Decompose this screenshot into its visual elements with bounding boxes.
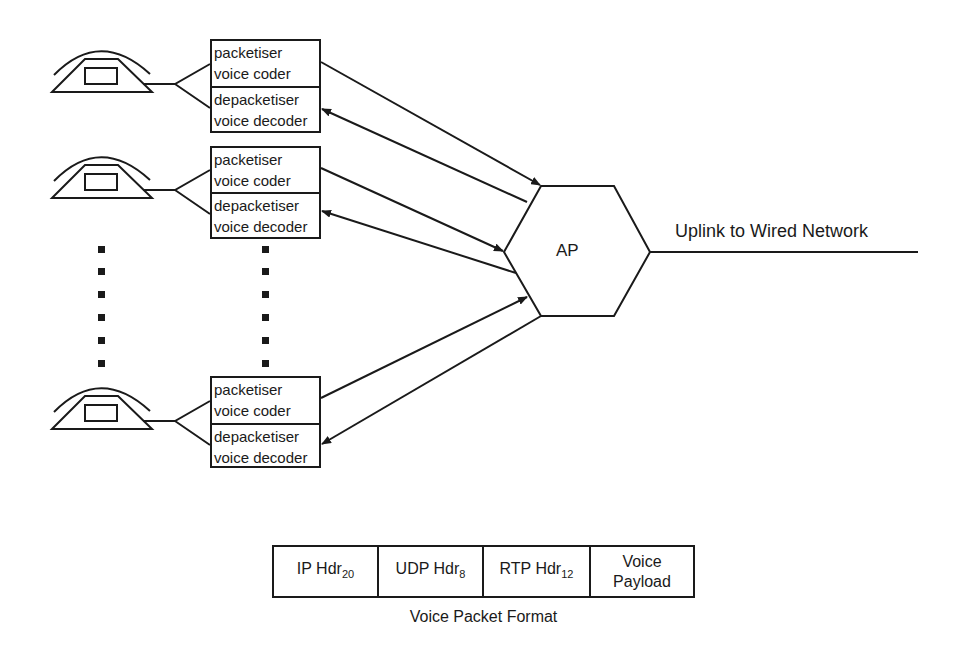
field-size: 8 [459,568,465,580]
phone-icon [52,157,210,214]
coder-line-1: packetiser [214,379,319,400]
field-name: UDP Hdr [396,560,460,577]
codec-box-2: packetiser voice coder depacketiser voic… [210,146,321,239]
field-line-1: Voice [622,553,661,570]
ip-header-field: IP Hdr20 [274,547,379,596]
decoder-section: depacketiser voice decoder [212,86,319,131]
ellipsis-dots [98,246,269,367]
codec-box-n: packetiser voice coder depacketiser voic… [210,376,321,468]
coder-line-1: packetiser [214,42,319,63]
decoder-line-2: voice decoder [214,216,319,237]
decoder-line-2: voice decoder [214,447,319,468]
phone-icon [52,388,210,445]
codec-box-1: packetiser voice coder depacketiser voic… [210,39,321,133]
udp-header-field: UDP Hdr8 [379,547,484,596]
field-name: RTP Hdr [500,560,562,577]
decoder-line-1: depacketiser [214,89,319,110]
coder-section: packetiser voice coder [212,41,319,87]
field-name: IP Hdr [297,560,342,577]
rtp-header-field: RTP Hdr12 [484,547,591,596]
voice-payload-field: VoicePayload [591,547,693,596]
field-size: 20 [342,568,354,580]
decoder-section: depacketiser voice decoder [212,423,319,467]
coder-line-2: voice coder [214,63,319,84]
decoder-line-1: depacketiser [214,426,319,447]
uplink-label: Uplink to Wired Network [675,220,868,242]
decoder-section: depacketiser voice decoder [212,192,319,237]
coder-line-1: packetiser [214,149,319,170]
packet-format-caption: Voice Packet Format [272,606,695,628]
coder-section: packetiser voice coder [212,378,319,424]
coder-section: packetiser voice coder [212,148,319,193]
phone-icon [52,51,210,108]
coder-line-2: voice coder [214,400,319,421]
field-line-2: Payload [613,573,671,590]
link-arrows [321,62,541,444]
decoder-line-2: voice decoder [214,110,319,131]
decoder-line-1: depacketiser [214,195,319,216]
field-size: 12 [561,568,573,580]
access-point-label: AP [556,240,579,262]
voice-packet-format: IP Hdr20 UDP Hdr8 RTP Hdr12 VoicePayload [272,545,695,598]
coder-line-2: voice coder [214,170,319,191]
